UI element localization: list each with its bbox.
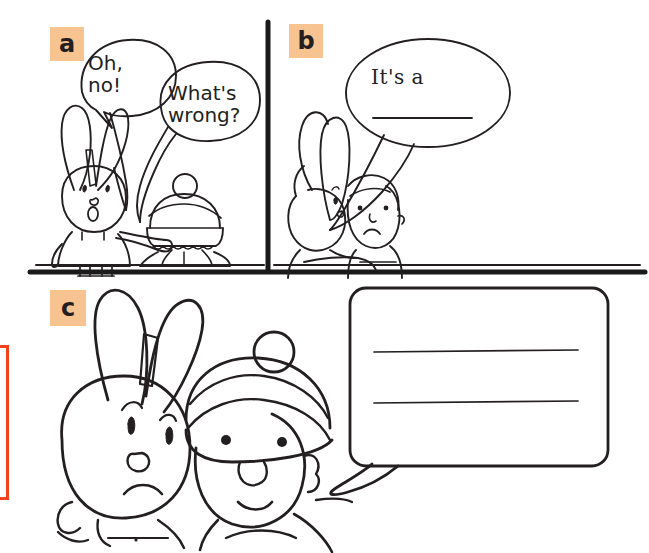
red-marker-bar [0,345,9,500]
bubble-text-its-a: It's a [371,66,481,88]
comic-worksheet-page: a b c Oh, no! What's wrong? It's a [0,0,649,553]
panel-label-b: b [289,24,323,58]
bubble-text-whats-wrong: What's wrong? [168,82,264,127]
bubble-text-oh-no: Oh, no! [88,52,162,97]
panel-label-a: a [50,27,84,61]
character-rabbit-panel-a [52,106,172,276]
bubble-writing-line-1 [374,350,578,352]
character-rabbit-panel-b [288,112,376,278]
bubble-writing-line-2 [374,401,578,403]
speech-bubble-blank-answer [331,288,608,495]
character-rabbit-panel-c [58,290,203,548]
panel-label-c: c [50,290,86,326]
character-child-panel-c [186,332,352,552]
character-child-hat-panel-a [140,174,230,266]
